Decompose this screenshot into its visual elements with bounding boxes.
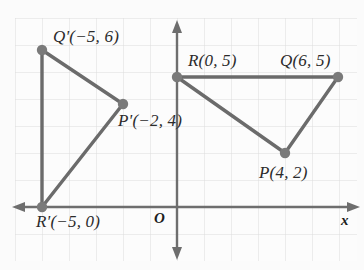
coordinate-plane-figure: Q'(−5, 6) P'(−2, 4) R'(−5, 0) R(0, 5) Q(… (0, 0, 364, 270)
label-p-prime: P'(−2, 4) (118, 112, 182, 129)
vertex-r-prime (37, 202, 47, 212)
x-axis-label: x (341, 213, 349, 228)
label-p: P(4, 2) (259, 164, 308, 181)
vertex-r (172, 72, 182, 82)
label-q-prime: Q'(−5, 6) (53, 28, 119, 45)
label-r-prime: R'(−5, 0) (36, 213, 100, 230)
origin-label: O (154, 211, 165, 226)
label-r: R(0, 5) (188, 52, 237, 69)
vertex-q (333, 72, 343, 82)
label-q: Q(6, 5) (280, 52, 331, 69)
vertex-p-prime (118, 99, 128, 109)
vertex-p (280, 148, 290, 158)
vertex-q-prime (37, 45, 47, 55)
